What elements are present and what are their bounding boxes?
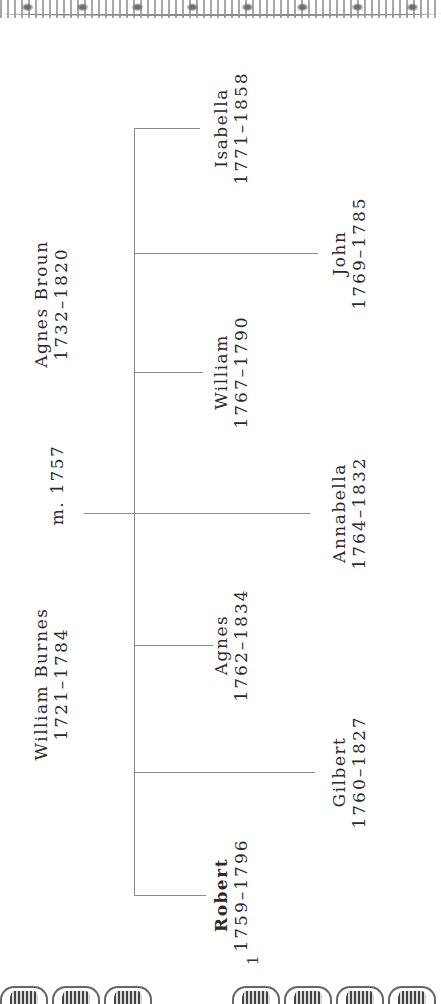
child-john: John 1769–1785 [330,183,369,323]
ornamental-border-bottom [0,984,441,1004]
child-years: 1760–1827 [350,702,370,842]
father-label: William Burnes 1721–1784 [32,584,71,784]
branch-william [134,372,203,373]
child-years: 1769–1785 [350,183,370,323]
child-william: William 1767–1790 [212,302,251,442]
child-years: 1759–1796 [232,825,252,965]
mother-years: 1732–1820 [52,204,72,404]
child-name: Isabella [212,58,232,198]
border-ornament-icon [104,986,152,1004]
border-ornament-icon [52,986,100,1004]
sibling-spine-line [134,128,135,896]
border-ornament-icon [232,986,280,1004]
mother-name: Agnes Broun [32,204,52,404]
child-annabella: Annabella 1764–1832 [330,443,369,583]
border-ornament-icon [336,986,384,1004]
child-years: 1771–1858 [232,58,252,198]
child-name: Gilbert [330,702,350,842]
marriage-date: m. 1757 [48,430,68,540]
ornamental-border-top [0,0,441,18]
branch-isabella [134,128,200,129]
child-years: 1764–1832 [350,443,370,583]
child-name: Agnes [212,575,232,715]
child-gilbert: Gilbert 1760–1827 [330,702,369,842]
border-ornament-icon [0,986,48,1004]
child-name: Annabella [330,443,350,583]
marriage-line [84,513,310,514]
child-isabella: Isabella 1771–1858 [212,58,251,198]
child-name: William [212,302,232,442]
branch-john [134,253,318,254]
child-years: 1767–1790 [232,302,252,442]
page-number: 1 [244,955,262,965]
child-agnes: Agnes 1762–1834 [212,575,251,715]
marriage-label: m. 1757 [48,430,68,540]
child-years: 1762–1834 [232,575,252,715]
border-gap [194,986,228,1004]
father-name: William Burnes [32,584,52,784]
branch-robert [134,895,206,896]
border-ornament-icon [284,986,332,1004]
mother-label: Agnes Broun 1732–1820 [32,204,71,404]
branch-agnes [134,645,213,646]
father-years: 1721–1784 [52,584,72,784]
border-ornament-icon [388,986,436,1004]
border-gap [156,986,190,1004]
child-robert: Robert 1759–1796 [212,825,251,965]
child-name: John [330,183,350,323]
child-name: Robert [212,825,232,965]
branch-gilbert [134,772,315,773]
